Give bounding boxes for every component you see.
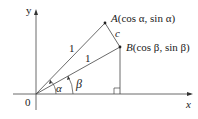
unit-circle-diagram: y x 0 A(cos α, sin α) B(cos β, sin β) c … [0, 0, 198, 119]
angle-beta-label: β [75, 77, 82, 91]
y-axis-label: y [26, 4, 32, 16]
point-B [119, 46, 122, 49]
segment-c-label: c [115, 27, 120, 39]
angle-alpha-label: α [56, 82, 62, 94]
x-axis-arrow-icon [187, 92, 193, 96]
segment-OA [36, 23, 105, 94]
segment-OB-length: 1 [85, 52, 91, 64]
segment-OA-length: 1 [69, 42, 75, 54]
x-axis-label: x [185, 98, 191, 110]
y-axis-arrow-icon [34, 9, 38, 15]
right-angle-marker-icon [114, 88, 120, 94]
point-A [104, 22, 107, 25]
point-B-label: B(cos β, sin β) [126, 41, 190, 54]
origin-label: 0 [25, 96, 31, 108]
point-A-label: A(cos α, sin α) [110, 12, 175, 25]
